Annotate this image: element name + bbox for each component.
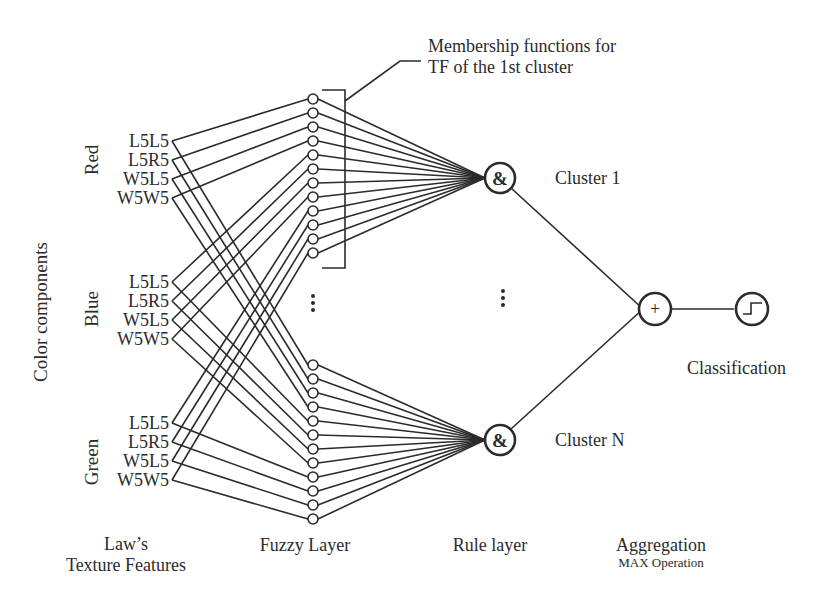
and-operator-icon: & [492,168,508,189]
fuzzy-membership-node [308,178,318,188]
fuzzy-membership-node [308,472,318,482]
group-label-green: Green [81,438,102,485]
feature-label-red-1: L5R5 [128,150,169,170]
fuzzy-membership-node [308,444,318,454]
ellipsis-dot [501,289,505,293]
plus-operator-icon: + [650,299,660,319]
fuzzy-membership-node [308,416,318,426]
feature-label-green-1: L5R5 [128,432,169,452]
feature-label-red-2: W5L5 [123,169,169,189]
feature-label-red-3: W5W5 [117,188,169,208]
fuzzy-ellipsis [311,294,315,312]
edge-fuzzy-to-rule-1 [318,178,485,253]
fuzzy-membership-node [308,486,318,496]
fuzzy-membership-node [308,500,318,510]
annotation-line-2: TF of the 1st cluster [428,57,573,77]
edge-input-1-to-fuzzy-group-2 [172,160,308,379]
fuzzy-membership-node [308,192,318,202]
fuzzy-membership-node [308,374,318,384]
fuzzy-membership-node [308,248,318,258]
input-layer-label-line2: Texture Features [66,555,186,575]
feature-label-blue-1: L5R5 [128,291,169,311]
fuzzy-membership-node [308,94,318,104]
edge-input-10-to-fuzzy-group-1 [172,239,308,461]
fuzzy-membership-node [308,122,318,132]
edge-cluster1-to-aggregation [511,188,643,309]
feature-label-green-0: L5L5 [129,413,169,433]
fuzzy-membership-node [308,388,318,398]
edge-fuzzy-to-rule-1 [318,113,485,178]
ellipsis-dot [501,296,505,300]
fuzzy-membership-node [308,360,318,370]
fuzzy-network-diagram: Membership functions for TF of the 1st c… [0,0,838,600]
rule-layer-label: Rule layer [453,535,527,555]
fuzzy-membership-node [308,206,318,216]
and-operator-icon: & [492,430,508,451]
feature-label-blue-0: L5L5 [129,272,169,292]
rule-node-cluster-n: & [485,425,515,455]
cluster-n-label: Cluster N [555,430,625,450]
rule-ellipsis [501,289,505,307]
ellipsis-dot [311,308,315,312]
cluster-1-label: Cluster 1 [555,168,621,188]
fuzzy-membership-node [308,430,318,440]
feature-label-red-0: L5L5 [129,131,169,151]
fuzzy-membership-node [308,164,318,174]
aggregation-layer-label: Aggregation [616,535,706,555]
edge-fuzzy-to-rule-2 [318,393,485,440]
feature-label-blue-3: W5W5 [117,329,169,349]
group-label-blue: Blue [81,291,102,327]
fuzzy-membership-node [308,108,318,118]
edge-fuzzy-to-rule-1 [318,141,485,178]
edge-fuzzy-to-rule-2 [318,440,485,505]
feature-label-green-2: W5L5 [123,451,169,471]
classification-node [736,293,768,325]
feature-labels: L5L5 L5R5 W5L5 W5W5 L5L5 L5R5 W5L5 W5W5 … [117,131,169,490]
edge-input-11-to-fuzzy-group-2 [172,480,308,519]
aggregation-sub-label: MAX Operation [618,555,704,570]
edge-clusterN-to-aggregation [511,309,643,429]
fuzzy-to-rule-edges [318,99,485,519]
classification-label: Classification [687,358,786,378]
feature-label-green-3: W5W5 [117,470,169,490]
classification-node-circle [736,293,768,325]
fuzzy-membership-node [308,220,318,230]
fuzzy-membership-node [308,514,318,524]
input-to-fuzzy-edges [172,99,308,519]
fuzzy-membership-node [308,150,318,160]
annotation-line-1: Membership functions for [428,36,616,56]
edge-input-6-to-fuzzy-group-2 [172,320,308,449]
ellipsis-dot [311,301,315,305]
fuzzy-layer-label: Fuzzy Layer [260,535,350,555]
annotation-leader-line [345,61,421,101]
group-label-red: Red [81,144,102,175]
fuzzy-membership-node [308,458,318,468]
fuzzy-membership-node [308,234,318,244]
edge-input-9-to-fuzzy-group-1 [172,225,308,442]
edge-fuzzy-to-rule-2 [318,440,485,477]
color-components-label: Color components [30,242,51,382]
feature-label-blue-2: W5L5 [123,310,169,330]
edge-fuzzy-to-rule-2 [318,365,485,440]
ellipsis-dot [501,303,505,307]
edge-input-6-to-fuzzy-group-1 [172,183,308,320]
rule-node-cluster-1: & [485,163,515,193]
aggregation-node: + [639,293,671,325]
fuzzy-membership-node [308,402,318,412]
input-layer-label-line1: Law’s [104,534,148,554]
membership-bracket [322,61,421,268]
fuzzy-membership-node [308,136,318,146]
ellipsis-dot [311,294,315,298]
edge-fuzzy-to-rule-1 [318,178,485,225]
